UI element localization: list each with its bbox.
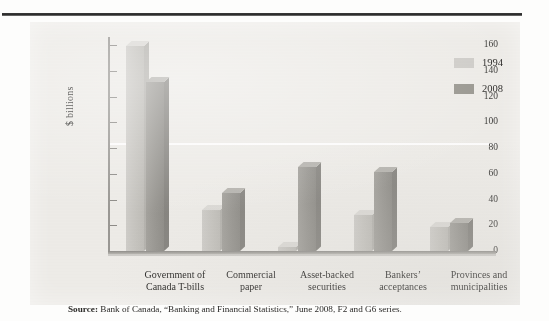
bar-group	[126, 37, 170, 251]
y-tick-mark	[110, 225, 117, 226]
y-tick-mark	[110, 71, 117, 72]
y-tick-mark	[110, 97, 117, 98]
category-labels: Government ofCanada T-billsCommercialpap…	[108, 269, 512, 299]
chart-panel: 020406080100120140160 $ billions Governm…	[30, 22, 520, 305]
y-tick-label: 40	[472, 195, 498, 204]
bar-group	[202, 37, 246, 251]
x-axis-baseline-shadow	[108, 254, 496, 256]
y-axis-label: $ billions	[64, 86, 75, 126]
bar-side-face	[240, 189, 245, 251]
figure-bar-chart: 020406080100120140160 $ billions Governm…	[0, 0, 549, 321]
bar-2008	[146, 82, 164, 251]
y-tick-mark	[110, 122, 117, 123]
bar-1994	[354, 215, 372, 251]
bar-front-face	[354, 215, 372, 251]
bar-front-face	[450, 223, 468, 251]
legend-label: 1994	[482, 55, 503, 70]
bar-front-face	[374, 172, 392, 251]
bar-front-face	[126, 46, 144, 251]
bar-group	[278, 37, 322, 251]
bar-2008	[450, 223, 468, 251]
y-tick-mark	[110, 148, 117, 149]
source-citation: Bank of Canada, “Banking and Financial S…	[98, 304, 402, 314]
bar-group	[430, 37, 474, 251]
bar-side-face	[316, 163, 321, 251]
source-note: Source: Bank of Canada, “Banking and Fin…	[68, 303, 538, 315]
source-label: Source:	[68, 304, 98, 314]
bar-1994	[202, 210, 220, 251]
bar-side-face	[164, 78, 169, 251]
y-tick-label: 100	[472, 117, 498, 126]
bar-front-face	[430, 227, 448, 251]
y-tick-mark	[110, 45, 117, 46]
category-label-line: municipalities	[430, 281, 528, 293]
bar-front-face	[222, 193, 240, 251]
legend-label: 2008	[482, 81, 503, 96]
category-label: Provinces andmunicipalities	[430, 269, 528, 292]
plot-area: 020406080100120140160 $ billions	[78, 30, 498, 270]
y-tick-label: 60	[472, 169, 498, 178]
y-tick-label: 80	[472, 143, 498, 152]
bar-group	[354, 37, 398, 251]
bar-2008	[222, 193, 240, 251]
category-label-line: Provinces and	[430, 269, 528, 281]
legend-swatch-icon	[454, 58, 474, 68]
bar-1994	[430, 227, 448, 251]
bar-front-face	[298, 167, 316, 251]
top-rule-divider	[2, 13, 522, 16]
bar-side-face	[392, 168, 397, 251]
y-tick-mark	[110, 200, 117, 201]
bar-front-face	[202, 210, 220, 251]
y-tick-label: 20	[472, 220, 498, 229]
y-tick-label: 160	[472, 40, 498, 49]
bar-2008	[298, 167, 316, 251]
legend-swatch-icon	[454, 84, 474, 94]
bar-front-face	[146, 82, 164, 251]
bar-side-face	[468, 218, 473, 251]
y-tick-mark	[110, 174, 117, 175]
bar-1994	[126, 46, 144, 251]
bar-2008	[374, 172, 392, 251]
